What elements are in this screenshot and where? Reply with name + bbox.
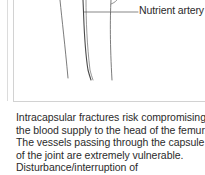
femur-shaft-outer-left <box>60 0 68 78</box>
body-paragraph: Intracapsular fractures risk compromisin… <box>16 111 205 174</box>
nutrient-artery-label: Nutrient artery <box>139 4 204 16</box>
body-text: Intracapsular fractures risk compromisin… <box>16 111 205 174</box>
vessel-branch <box>111 0 118 4</box>
